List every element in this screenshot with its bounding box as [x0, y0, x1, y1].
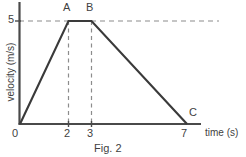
figure-caption: Fig. 2	[94, 143, 122, 154]
x-tick-label-0: 0	[12, 128, 18, 139]
x-axis-title: time (s)	[205, 128, 238, 138]
y-axis-title: velocity (m/s)	[6, 40, 16, 104]
point-label-a: A	[63, 2, 70, 13]
point-label-b: B	[86, 2, 93, 13]
y-tick-label-5: 5	[8, 14, 14, 25]
velocity-series-line	[20, 21, 187, 124]
point-label-c: C	[189, 107, 197, 118]
x-tick-label-3: 3	[87, 128, 93, 139]
x-tick-label-2: 2	[64, 128, 70, 139]
velocity-time-graph-figure: velocity (m/s) time (s) 5 0 2 3 7 A B C …	[0, 0, 246, 157]
x-tick-label-7: 7	[181, 128, 187, 139]
